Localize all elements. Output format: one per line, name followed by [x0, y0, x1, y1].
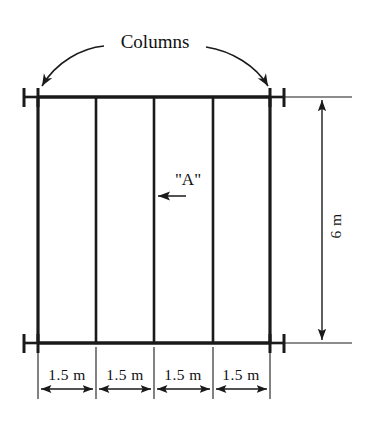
bay-label-3: 1.5 m [164, 366, 201, 383]
columns-leader-right [206, 47, 268, 86]
columns-label: Columns [121, 31, 190, 52]
height-dimension: 6 m [322, 100, 344, 340]
height-dimension-label: 6 m [327, 214, 344, 239]
member-a-label: "A" [175, 170, 201, 189]
columns-group [38, 97, 270, 343]
columns-leader-left [42, 46, 104, 86]
bay-label-1: 1.5 m [48, 366, 85, 383]
bay-label-2: 1.5 m [106, 366, 143, 383]
columns-annotation: Columns [42, 31, 268, 86]
bay-label-4: 1.5 m [222, 366, 259, 383]
frame-diagram: Columns [0, 0, 367, 426]
bay-dimensions: 1.5 m 1.5 m 1.5 m 1.5 m [38, 347, 270, 399]
member-a-annotation: "A" [158, 170, 201, 196]
frame-diagram-canvas: Columns [0, 0, 367, 426]
